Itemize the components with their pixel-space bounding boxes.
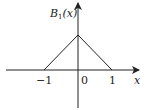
- x-axis-label: x: [134, 74, 141, 87]
- hat-function-plot: B1(x) −1 0 1 x: [0, 0, 148, 110]
- tick-label-1: 1: [109, 74, 116, 87]
- tick-label-neg1: −1: [36, 74, 52, 87]
- y-axis-label: B1(x): [49, 7, 77, 21]
- tick-label-0: 0: [81, 74, 88, 87]
